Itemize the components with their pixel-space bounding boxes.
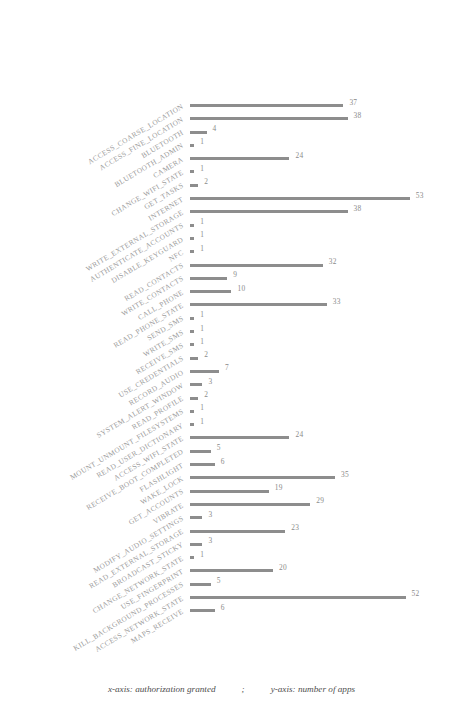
- bar-row: 4: [190, 127, 420, 140]
- bar-row: 1: [190, 166, 420, 179]
- category-label: BLUETOOTH_ADMIN: [5, 142, 185, 254]
- bar: [190, 250, 194, 253]
- bar: [190, 303, 327, 306]
- category-label: CHANGE_NETWORK_STATE: [5, 554, 185, 666]
- bar: [190, 131, 207, 134]
- category-label: RECORD_AUDIO: [5, 368, 185, 480]
- bar-row: 2: [190, 393, 420, 406]
- bar-row: 6: [190, 605, 420, 618]
- bar-value-label: 24: [295, 430, 303, 440]
- caption-x-axis: x-axis: authorization granted: [108, 684, 216, 694]
- bar-row: 35: [190, 472, 420, 485]
- bar-row: 7: [190, 366, 420, 379]
- bar-value-label: 9: [233, 270, 237, 280]
- bar-value-label: 3: [208, 510, 212, 520]
- category-label: RECEIVE_SMS: [5, 341, 185, 453]
- category-label: USE_FINGERPRINT: [5, 568, 185, 680]
- category-label: SEND_SMS: [5, 315, 185, 427]
- bar: [190, 609, 215, 612]
- bar-row: 38: [190, 206, 420, 219]
- bar: [190, 423, 194, 426]
- bar-row: 23: [190, 526, 420, 539]
- bar-row: 32: [190, 260, 420, 273]
- bar: [190, 330, 194, 333]
- bar: [190, 264, 323, 267]
- bar-value-label: 6: [221, 603, 225, 613]
- category-label: BLUETOOTH: [5, 129, 185, 241]
- bar: [190, 569, 273, 572]
- bar: [190, 463, 215, 466]
- chart-caption: x-axis: authorization granted;y-axis: nu…: [0, 684, 463, 694]
- category-label: READ_EXTERNAL_STORAGE: [5, 528, 185, 640]
- bar: [190, 197, 410, 200]
- category-label: READ_PROFILE: [5, 395, 185, 507]
- bar-row: 3: [190, 379, 420, 392]
- permissions-bar-chart: ACCESS_COARSE_LOCATIONACCESS_FINE_LOCATI…: [0, 0, 463, 715]
- bar: [190, 370, 219, 373]
- bar: [190, 224, 194, 227]
- bar-value-label: 1: [200, 230, 204, 240]
- bar-value-label: 1: [200, 164, 204, 174]
- category-label: READ_USER_DICTIONARY: [5, 421, 185, 533]
- category-label: WRITE_EXTERNAL_STORAGE: [5, 208, 185, 320]
- bar-row: 24: [190, 432, 420, 445]
- category-label: READ_PHONE_STATE: [5, 302, 185, 414]
- category-label: CAMERA: [5, 155, 185, 267]
- bar: [190, 170, 194, 173]
- bar-row: 1: [190, 339, 420, 352]
- bar-value-label: 1: [200, 417, 204, 427]
- bar-value-label: 20: [279, 563, 287, 573]
- category-label: BROADCAST_STICKY: [5, 541, 185, 653]
- category-label: WAKE_LOCK: [5, 474, 185, 586]
- bar-row: 20: [190, 565, 420, 578]
- bar-row: 1: [190, 419, 420, 432]
- bar: [190, 383, 202, 386]
- category-label: INTERNET: [5, 195, 185, 307]
- bar: [190, 157, 289, 160]
- caption-y-axis: y-axis: number of apps: [271, 684, 355, 694]
- category-label: KILL_BACKGROUND_PROCESSES: [5, 581, 185, 693]
- category-label: RECEIVE_BOOT_COMPLETED: [5, 448, 185, 560]
- bar: [190, 184, 198, 187]
- category-label: SYSTEM_ALERT_WINDOW: [5, 381, 185, 493]
- bar-value-label: 3: [208, 536, 212, 546]
- bar-row: 1: [190, 233, 420, 246]
- bar-row: 9: [190, 273, 420, 286]
- bar: [190, 556, 194, 559]
- bar-row: 3: [190, 512, 420, 525]
- bar-row: 37: [190, 100, 420, 113]
- bar: [190, 117, 348, 120]
- category-label: VIBRATE: [5, 501, 185, 613]
- bar-row: 38: [190, 113, 420, 126]
- bar-value-label: 1: [200, 550, 204, 560]
- category-label: USE_CREDENTIALS: [5, 355, 185, 467]
- category-label: ACCESS_FINE_LOCATION: [5, 115, 185, 227]
- bar-value-label: 3: [208, 377, 212, 387]
- bar-row: 2: [190, 180, 420, 193]
- bar-value-label: 32: [329, 257, 337, 267]
- bar-value-label: 1: [200, 217, 204, 227]
- bar: [190, 596, 406, 599]
- bar-row: 29: [190, 499, 420, 512]
- caption-separator: ;: [216, 684, 271, 694]
- bar-value-label: 2: [204, 390, 208, 400]
- bar: [190, 450, 211, 453]
- bar-row: 1: [190, 313, 420, 326]
- bar: [190, 317, 194, 320]
- bar: [190, 583, 211, 586]
- bar-row: 10: [190, 286, 420, 299]
- bar: [190, 397, 198, 400]
- bar: [190, 290, 231, 293]
- bar-value-label: 7: [225, 363, 229, 373]
- bar-value-label: 1: [200, 310, 204, 320]
- bar: [190, 277, 227, 280]
- bar: [190, 343, 194, 346]
- bar-value-label: 53: [416, 191, 424, 201]
- plot-area: 3738412412533811132910331112732112456351…: [190, 100, 420, 646]
- bar-value-label: 38: [354, 204, 362, 214]
- category-label: AUTHENTICATE_ACCOUNTS: [5, 222, 185, 334]
- bar: [190, 543, 202, 546]
- category-label: MOUNT_UNMOUNT_FILESYSTEMS: [5, 408, 185, 520]
- bar-value-label: 2: [204, 350, 208, 360]
- bar-value-label: 52: [412, 589, 420, 599]
